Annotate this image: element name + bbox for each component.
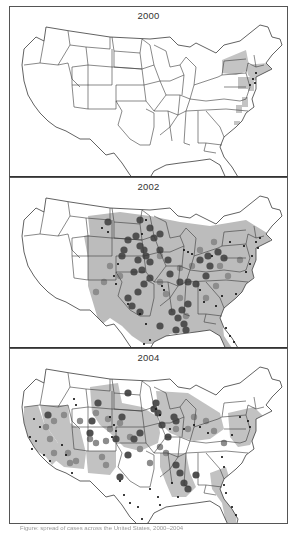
us-map-2004 bbox=[10, 349, 288, 524]
medium-circle-marker bbox=[103, 462, 109, 468]
case-dot-marker bbox=[137, 506, 139, 508]
case-dot-marker bbox=[231, 434, 233, 436]
medium-circle-marker bbox=[77, 418, 83, 424]
case-dot-marker bbox=[187, 251, 189, 253]
case-dot-marker bbox=[149, 488, 151, 490]
dark-circle-marker bbox=[156, 322, 163, 329]
case-dot-marker bbox=[257, 247, 259, 249]
medium-circle-marker bbox=[191, 414, 197, 420]
medium-circle-marker bbox=[47, 436, 53, 442]
case-dot-marker bbox=[113, 275, 115, 277]
dark-circle-marker bbox=[94, 399, 101, 406]
case-dot-marker bbox=[177, 496, 179, 498]
state-boundary bbox=[58, 31, 70, 65]
state-boundary bbox=[40, 383, 68, 407]
case-dot-marker bbox=[71, 472, 73, 474]
dark-circle-marker bbox=[44, 411, 51, 418]
case-dot-marker bbox=[223, 484, 225, 486]
dark-circle-marker bbox=[116, 473, 123, 480]
state-boundary bbox=[186, 451, 248, 453]
figure-caption: Figure: spread of cases across the Unite… bbox=[20, 525, 183, 531]
medium-circle-marker bbox=[213, 283, 219, 289]
case-dot-marker bbox=[225, 492, 227, 494]
dark-circle-marker bbox=[128, 302, 135, 309]
medium-circle-marker bbox=[173, 426, 179, 432]
case-dot-marker bbox=[199, 289, 201, 291]
case-dot-marker bbox=[101, 227, 103, 229]
dark-circle-marker bbox=[182, 326, 189, 333]
medium-circle-marker bbox=[107, 263, 113, 269]
state-boundary bbox=[40, 212, 68, 236]
dark-circle-marker bbox=[176, 469, 183, 476]
state-boundary bbox=[204, 143, 216, 153]
state-boundary bbox=[190, 441, 240, 443]
case-dot-marker bbox=[35, 440, 37, 442]
medium-circle-marker bbox=[157, 253, 163, 259]
dark-circle-marker bbox=[166, 270, 173, 277]
dark-circle-marker bbox=[86, 429, 93, 436]
state-boundary bbox=[198, 453, 206, 485]
dark-circle-marker bbox=[132, 232, 139, 239]
case-dot-marker bbox=[211, 255, 213, 257]
case-dot-marker bbox=[157, 496, 159, 498]
case-dot-marker bbox=[43, 454, 45, 456]
case-dot-marker bbox=[109, 416, 111, 418]
case-dot-marker bbox=[145, 323, 147, 325]
case-dot-marker bbox=[229, 335, 231, 337]
shaded-region-maryland-spot bbox=[242, 97, 248, 107]
medium-circle-marker bbox=[147, 460, 153, 466]
case-dot-marker bbox=[31, 448, 33, 450]
case-dot-marker bbox=[111, 436, 113, 438]
dark-circle-marker bbox=[88, 417, 95, 424]
us-map-2000 bbox=[10, 7, 288, 178]
case-dot-marker bbox=[61, 444, 63, 446]
state-boundary bbox=[178, 99, 190, 115]
state-boundary bbox=[154, 111, 170, 135]
dark-circle-marker bbox=[206, 262, 213, 269]
state-boundary bbox=[198, 111, 206, 143]
medium-circle-marker bbox=[137, 446, 143, 452]
state-boundary bbox=[116, 101, 154, 145]
case-dot-marker bbox=[249, 84, 251, 86]
case-dot-marker bbox=[255, 241, 257, 243]
state-boundary bbox=[58, 373, 70, 407]
activity-fill-layer bbox=[222, 50, 272, 125]
case-dot-marker bbox=[119, 480, 121, 482]
map-panel-2002: 2002 bbox=[9, 177, 288, 349]
dark-circle-marker bbox=[124, 451, 131, 458]
state-boundary bbox=[146, 81, 166, 111]
state-boundary bbox=[72, 85, 88, 109]
case-dot-marker bbox=[235, 514, 237, 516]
state-boundary bbox=[86, 37, 110, 49]
case-dot-marker bbox=[171, 482, 173, 484]
case-dot-marker bbox=[113, 424, 115, 426]
case-dot-marker bbox=[115, 283, 117, 285]
dark-circle-marker bbox=[184, 300, 191, 307]
case-dot-marker bbox=[29, 436, 31, 438]
state-boundary bbox=[88, 85, 116, 109]
state-boundary bbox=[24, 63, 40, 65]
case-dot-marker bbox=[127, 303, 129, 305]
state-boundary bbox=[70, 216, 88, 238]
medium-circle-marker bbox=[51, 418, 57, 424]
medium-circle-marker bbox=[203, 295, 209, 301]
state-boundary bbox=[160, 65, 184, 81]
case-dot-marker bbox=[183, 249, 185, 251]
case-dot-marker bbox=[247, 420, 249, 422]
dark-circle-marker bbox=[204, 252, 211, 259]
state-boundary bbox=[182, 75, 184, 95]
case-dot-marker bbox=[39, 426, 41, 428]
case-dot-marker bbox=[191, 253, 193, 255]
case-dot-marker bbox=[231, 506, 233, 508]
case-dot-marker bbox=[159, 504, 161, 506]
case-dot-marker bbox=[203, 301, 205, 303]
case-dot-marker bbox=[149, 339, 151, 341]
case-dot-marker bbox=[252, 78, 254, 80]
state-boundary bbox=[184, 111, 190, 145]
case-dot-marker bbox=[221, 456, 223, 458]
dark-circle-marker bbox=[130, 435, 137, 442]
state-boundary bbox=[112, 67, 144, 85]
case-dot-marker bbox=[115, 430, 117, 432]
dark-circle-marker bbox=[124, 236, 131, 243]
case-dot-marker bbox=[155, 408, 157, 410]
